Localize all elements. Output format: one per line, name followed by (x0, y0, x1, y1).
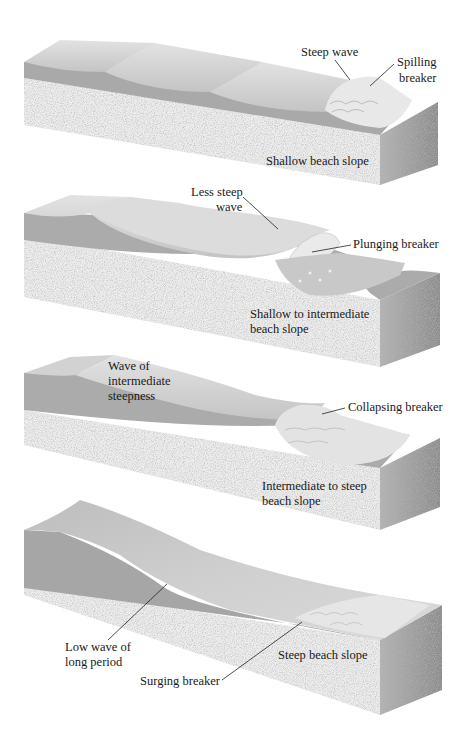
label-intermediate-wave-line3: steepness (108, 389, 155, 404)
label-surging-breaker: Surging breaker (140, 674, 220, 689)
label-plunging-breaker: Plunging breaker (353, 237, 439, 252)
label-spilling-breaker-line1: Spilling (397, 55, 437, 70)
leader-steep-wave (335, 60, 350, 80)
label-intermediate-wave-line1: Wave of (108, 359, 150, 374)
label-shallow-intermediate-line1: Shallow to intermediate (250, 307, 369, 322)
label-intermediate-steep-line1: Intermediate to steep (262, 479, 367, 494)
label-steep-beach-slope: Steep beach slope (278, 648, 368, 663)
label-intermediate-wave-line2: intermediate (108, 374, 170, 389)
panel-surging-breaker: Low wave of long period Surging breaker … (0, 500, 473, 743)
label-collapsing-breaker: Collapsing breaker (348, 400, 443, 415)
label-low-wave-line2: long period (65, 655, 122, 670)
label-low-wave-line1: Low wave of (65, 640, 131, 655)
label-steep-wave: Steep wave (301, 45, 358, 60)
surging-breaker-illustration (0, 500, 473, 743)
label-shallow-beach-slope: Shallow beach slope (266, 154, 369, 169)
label-spilling-breaker-line2: breaker (399, 71, 436, 86)
panel-spilling-breaker: Steep wave Spilling breaker Shallow beac… (0, 0, 473, 190)
label-less-steep-line1: Less steep (191, 185, 243, 200)
label-less-steep-line2: wave (216, 200, 242, 215)
spilling-breaker-illustration (0, 0, 473, 190)
